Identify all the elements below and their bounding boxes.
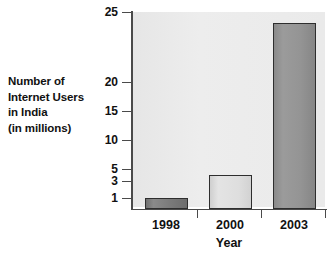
bar-1998[interactable] <box>145 198 188 209</box>
y-tick-label-10: 10 <box>96 134 118 146</box>
y-tick-label-25: 25 <box>96 6 118 18</box>
x-tick-mark-2 <box>261 209 262 218</box>
x-tick-mark-3 <box>325 209 326 218</box>
y-tick-label-5: 5 <box>96 163 118 175</box>
x-axis-line <box>131 209 327 211</box>
y-tick-label-wrap-10: 10 <box>96 134 118 146</box>
x-axis-label-1998: 1998 <box>134 218 198 232</box>
y-tick-label-wrap-5: 5 <box>96 163 118 175</box>
x-axis-label-2000: 2000 <box>198 218 262 232</box>
x-tick-mark-1 <box>197 209 198 218</box>
y-tick-mark-10 <box>122 140 132 141</box>
y-tick-label-3: 3 <box>96 175 118 187</box>
y-tick-mark-3 <box>122 181 132 182</box>
y-tick-mark-1 <box>122 198 132 199</box>
y-tick-label-wrap-25: 25 <box>96 6 118 18</box>
bar-2003[interactable] <box>273 23 316 209</box>
y-tick-label-20: 20 <box>96 76 118 88</box>
y-tick-label-wrap-1: 1 <box>96 192 118 204</box>
y-axis-title-line-2: Internet Users <box>8 90 120 106</box>
y-tick-label-15: 15 <box>96 105 118 117</box>
y-tick-label-1: 1 <box>96 192 118 204</box>
bar-chart-figure: Number of Internet Users in India (in mi… <box>0 0 333 256</box>
bar-2000[interactable] <box>209 175 252 209</box>
y-tick-mark-25 <box>122 12 132 13</box>
y-tick-mark-15 <box>122 111 132 112</box>
y-tick-label-wrap-20: 20 <box>96 76 118 88</box>
x-axis-title: Year <box>133 236 325 250</box>
y-tick-mark-20 <box>122 82 132 83</box>
y-tick-mark-5 <box>122 169 132 170</box>
y-tick-label-wrap-3: 3 <box>96 175 118 187</box>
y-tick-label-wrap-15: 15 <box>96 105 118 117</box>
x-axis-label-2003: 2003 <box>262 218 326 232</box>
